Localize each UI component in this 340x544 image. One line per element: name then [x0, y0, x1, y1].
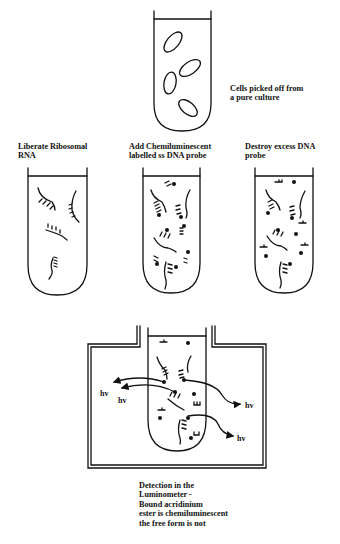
emission-label-hv: hv	[237, 434, 245, 443]
label-line: Detection in the	[139, 481, 228, 490]
label-line: Bound acridinium	[139, 500, 228, 509]
label-line: Liberate Ribosomal	[18, 142, 87, 151]
label-line: the free form is not	[139, 519, 228, 528]
step-label-cells: Cells picked off from a pure culture	[230, 84, 303, 103]
label-line: Add Chemiluminescent	[129, 142, 211, 151]
label-line: labelled ss DNA probe	[129, 151, 211, 160]
step-label-detect: Detection in the Luminometer - Bound acr…	[139, 481, 228, 528]
label-line: probe	[245, 151, 315, 160]
label-line: Luminometer -	[139, 490, 228, 499]
emission-label-hv: hv	[245, 401, 253, 410]
tube-detection-labels	[158, 341, 196, 440]
emission-label-hv: hv	[118, 396, 126, 405]
label-line: RNA	[18, 151, 87, 160]
step-label-destroy: Destroy excess DNA probe	[245, 142, 315, 161]
label-line: Cells picked off from	[230, 84, 303, 93]
label-line: Destroy excess DNA	[245, 142, 315, 151]
tube-detection	[148, 328, 206, 451]
tube-cells	[154, 11, 211, 131]
tube-add-probe	[143, 168, 200, 293]
luminometer	[88, 326, 266, 468]
step-label-liberate: Liberate Ribosomal RNA	[18, 142, 87, 161]
light-emission-arrows	[114, 378, 240, 436]
tube-destroy-probe-labels	[264, 180, 303, 266]
label-line: ester is chemiluminescent	[139, 509, 228, 518]
tube-liberate-rrna	[28, 168, 87, 295]
label-line: a pure culture	[230, 93, 303, 102]
step-label-add-probe: Add Chemiluminescent labelled ss DNA pro…	[129, 142, 211, 161]
assay-diagram: hv hv hv hv	[0, 0, 340, 544]
tube-add-probe-labels	[155, 182, 190, 269]
emission-label-hv: hv	[100, 389, 108, 398]
tube-destroy-probe	[255, 168, 313, 293]
